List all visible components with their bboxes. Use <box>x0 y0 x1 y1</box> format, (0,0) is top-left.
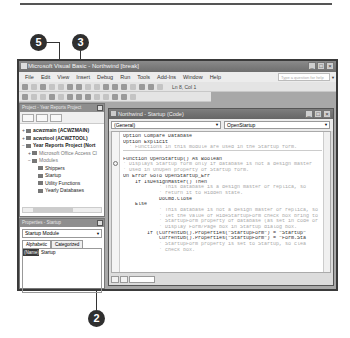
object-browser-icon[interactable] <box>157 84 163 90</box>
code-line[interactable]: ' check box. <box>123 248 322 254</box>
minimize-button[interactable]: _ <box>308 62 316 70</box>
toggle-folders-button[interactable] <box>50 114 62 122</box>
save-icon[interactable] <box>40 84 46 90</box>
property-row[interactable]: (Name) Startup <box>23 249 101 256</box>
quick-watch-icon[interactable] <box>121 94 127 100</box>
step-over-icon[interactable] <box>76 94 82 100</box>
view-access-icon[interactable] <box>22 84 28 90</box>
cut-icon[interactable] <box>49 84 55 90</box>
code-window-title-bar: Northwind - Startup (Code) _ □ × <box>109 109 333 119</box>
procedure-combo[interactable]: OpenStartup ▼ <box>224 121 330 129</box>
tree-item-access-objects[interactable]: +Microsoft Office Access Cl <box>20 150 104 158</box>
menu-file[interactable]: File <box>25 72 34 82</box>
code-lines: Option Compare DatabaseOption Explicit '… <box>123 134 322 253</box>
tree-item-utility-functions[interactable]: Utility Functions <box>20 180 104 188</box>
toggle-breakpoint-icon[interactable] <box>58 94 64 100</box>
run-icon[interactable] <box>103 84 109 90</box>
menu-view[interactable]: View <box>57 72 69 82</box>
code-maximize-button[interactable]: □ <box>314 110 322 118</box>
code-minimize-button[interactable]: _ <box>305 110 313 118</box>
cursor-position: Ln 8, Col 1 <box>172 84 196 90</box>
locals-window-icon[interactable] <box>94 94 100 100</box>
find-icon[interactable] <box>76 84 82 90</box>
menu-insert[interactable]: Insert <box>76 72 90 82</box>
project-pane-title: Project - Year Reports Project <box>20 104 104 112</box>
insert-module-icon[interactable] <box>31 84 37 90</box>
view-code-button[interactable] <box>22 114 34 122</box>
help-dropdown-icon[interactable]: ▼ <box>331 75 335 80</box>
procedure-view-button[interactable] <box>111 276 119 283</box>
tree-item-yearly-databases[interactable]: Yearly Databases <box>20 187 104 195</box>
design-mode-icon[interactable] <box>130 84 136 90</box>
menu-debug[interactable]: Debug <box>97 72 113 82</box>
copy-icon[interactable] <box>58 84 64 90</box>
vbe-window: Microsoft Visual Basic - Northwind [brea… <box>17 59 338 291</box>
property-grid: (Name) Startup <box>22 248 102 293</box>
break-icon[interactable] <box>112 84 118 90</box>
chevron-down-icon: ▼ <box>96 230 100 237</box>
standard-toolbar: Ln 8, Col 1 <box>19 82 336 92</box>
view-object-button[interactable] <box>36 114 48 122</box>
design-mode-icon[interactable] <box>22 94 28 100</box>
properties-icon[interactable] <box>148 84 154 90</box>
breakpoint-marker-icon[interactable] <box>113 161 118 166</box>
menu-edit[interactable]: Edit <box>41 72 50 82</box>
chevron-down-icon: ▼ <box>324 122 328 128</box>
properties-pane-title: Properties - Startup <box>20 219 104 227</box>
code-vertical-scrollbar[interactable] <box>323 132 330 272</box>
full-module-view-button[interactable] <box>120 276 128 283</box>
project-tree: +acwzmain (ACWZMAIN) +acwztool (ACWZTOOL… <box>20 124 104 195</box>
tree-item-startup[interactable]: Startup <box>20 172 104 180</box>
vba-app-icon <box>21 63 27 69</box>
callout-3: 3 <box>72 34 89 51</box>
code-close-button[interactable]: × <box>323 110 331 118</box>
close-button[interactable]: × <box>326 62 334 70</box>
properties-window: Properties - Startup Startup Module ▼ Al… <box>19 218 105 289</box>
step-into-icon[interactable] <box>67 94 73 100</box>
project-pane-close-icon[interactable] <box>97 105 103 111</box>
top-rule <box>20 3 332 5</box>
object-combo[interactable]: (General) ▼ <box>111 121 221 129</box>
menu-run[interactable]: Run <box>120 72 130 82</box>
module-icon <box>38 189 43 193</box>
break-icon[interactable] <box>40 94 46 100</box>
margin-indicator-bar[interactable] <box>112 132 120 272</box>
help-search-input[interactable]: Type a question for help <box>278 73 330 81</box>
redo-icon[interactable] <box>94 84 100 90</box>
callout-5: 5 <box>30 34 47 51</box>
menu-tools[interactable]: Tools <box>137 72 150 82</box>
run-icon[interactable] <box>31 94 37 100</box>
reset-icon[interactable] <box>121 84 127 90</box>
watch-window-icon[interactable] <box>112 94 118 100</box>
call-stack-icon[interactable] <box>130 94 136 100</box>
properties-pane-close-icon[interactable] <box>97 220 103 226</box>
code-editor[interactable]: Option Compare DatabaseOption Explicit '… <box>111 131 331 273</box>
reset-icon[interactable] <box>49 94 55 100</box>
project-explorer: Project - Year Reports Project +acwzmain… <box>19 103 105 217</box>
callout-5-line <box>46 42 60 43</box>
module-icon <box>38 166 43 170</box>
tree-item-acwztool[interactable]: +acwztool (ACWZTOOL) <box>20 135 104 143</box>
menu-add-ins[interactable]: Add-Ins <box>157 72 176 82</box>
step-out-icon[interactable] <box>85 94 91 100</box>
tab-alphabetic[interactable]: Alphabetic <box>22 240 51 248</box>
maximize-button[interactable]: □ <box>317 62 325 70</box>
tree-item-acwzmain[interactable]: +acwzmain (ACWZMAIN) <box>20 127 104 135</box>
tree-item-modules[interactable]: −Modules <box>20 157 104 165</box>
immediate-window-icon[interactable] <box>103 94 109 100</box>
tab-categorized[interactable]: Categorized <box>51 240 83 248</box>
project-explorer-icon[interactable] <box>139 84 145 90</box>
object-select[interactable]: Startup Module ▼ <box>22 229 102 238</box>
code-window: Northwind - Startup (Code) _ □ × (Genera… <box>108 108 334 286</box>
menu-help[interactable]: Help <box>210 72 221 82</box>
project-icon <box>26 144 31 148</box>
undo-icon[interactable] <box>85 84 91 90</box>
tree-item-year-reports-project[interactable]: −Year Reports Project (Nort <box>20 142 104 150</box>
folder-icon <box>32 151 37 155</box>
code-hscroll[interactable] <box>129 276 155 283</box>
callout-2: 2 <box>88 310 105 327</box>
tree-item-shippers[interactable]: Shippers <box>20 165 104 173</box>
project-pane-scrollbar[interactable] <box>22 207 102 213</box>
paste-icon[interactable] <box>67 84 73 90</box>
menu-window[interactable]: Window <box>183 72 203 82</box>
